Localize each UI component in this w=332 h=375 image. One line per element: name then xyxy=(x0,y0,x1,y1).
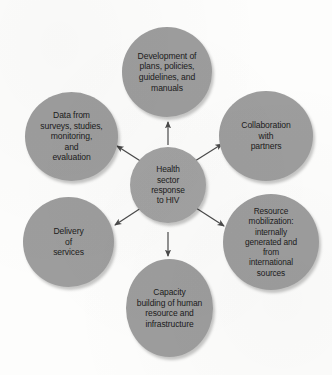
diagram-canvas: Development of plans, policies, guidelin… xyxy=(0,0,332,375)
node-collaboration-with-partners[interactable]: Collaboration with partners xyxy=(219,91,313,181)
center-node-label: Health sector response to HIV xyxy=(146,164,190,206)
node-label: Resource mobilization: internally genera… xyxy=(240,206,302,277)
arrow-center-to-collab xyxy=(195,144,222,161)
node-label: Data from surveys, studies, monitoring, … xyxy=(35,110,107,163)
node-label: Development of plans, policies, guidelin… xyxy=(133,51,202,93)
arrow-center-to-resource xyxy=(196,208,224,226)
node-development-of-plans[interactable]: Development of plans, policies, guidelin… xyxy=(122,27,212,117)
node-health-sector-response[interactable]: Health sector response to HIV xyxy=(130,147,206,223)
arrow-center-to-delivery xyxy=(115,208,141,225)
node-data-from-surveys[interactable]: Data from surveys, studies, monitoring, … xyxy=(25,92,118,181)
node-label: Capacity building of human resource and … xyxy=(132,287,207,329)
node-capacity-building[interactable]: Capacity building of human resource and … xyxy=(126,259,213,357)
node-label: Delivery of services xyxy=(48,226,89,258)
node-resource-mobilization[interactable]: Resource mobilization: internally genera… xyxy=(223,194,319,290)
node-label: Collaboration with partners xyxy=(236,120,295,152)
node-delivery-of-services[interactable]: Delivery of services xyxy=(23,197,114,287)
